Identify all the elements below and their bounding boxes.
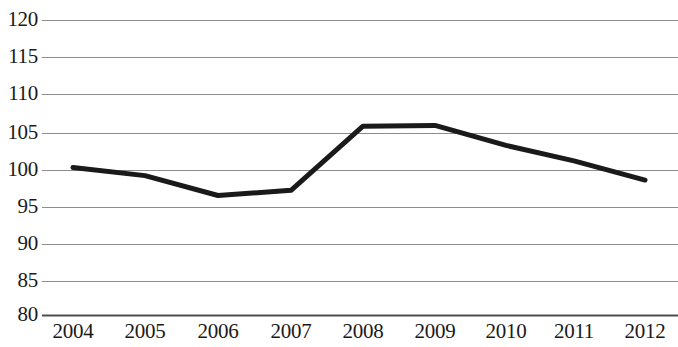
x-axis-tick-label: 2009	[399, 320, 471, 343]
y-tick-text: 100	[7, 159, 42, 180]
y-axis-tick-label: 120	[0, 9, 42, 30]
series-polyline	[73, 125, 645, 195]
y-tick-text: 90	[18, 233, 42, 254]
y-tick-text: 95	[18, 196, 42, 217]
x-axis-tick-label: 2012	[609, 320, 678, 343]
y-tick-text: 110	[8, 83, 42, 104]
data-series-line	[73, 125, 645, 195]
y-axis-tick-label: 85	[0, 270, 42, 291]
y-axis-tick-label: 100	[0, 159, 42, 180]
chart-plot-area	[0, 0, 678, 347]
y-tick-text: 105	[7, 122, 42, 143]
gridlines	[42, 21, 678, 282]
y-tick-text: 120	[7, 9, 42, 30]
y-axis-tick-label: 110	[0, 83, 42, 104]
y-axis-tick-label: 90	[0, 233, 42, 254]
y-axis-tick-label: 80	[0, 304, 42, 325]
y-axis-tick-label: 95	[0, 196, 42, 217]
line-chart: 120 115 110 105 100 95 90 85 80 2004 200…	[0, 0, 678, 347]
x-axis-tick-label: 2007	[255, 320, 327, 343]
y-tick-text: 85	[18, 270, 42, 291]
x-axis-tick-label: 2004	[37, 320, 109, 343]
x-axis-tick-label: 2005	[109, 320, 181, 343]
y-axis-tick-label: 105	[0, 122, 42, 143]
x-axis-tick-label: 2011	[538, 320, 610, 343]
x-axis-tick-label: 2010	[470, 320, 542, 343]
y-tick-text: 115	[8, 46, 42, 67]
y-axis-tick-label: 115	[0, 46, 42, 67]
x-axis-tick-label: 2008	[327, 320, 399, 343]
x-axis-tick-label: 2006	[182, 320, 254, 343]
